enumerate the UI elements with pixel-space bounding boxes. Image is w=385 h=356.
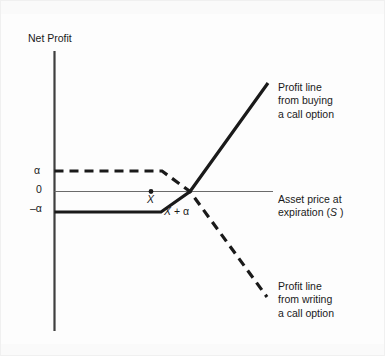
long-call-profit-line bbox=[55, 83, 269, 212]
y-tick-label-zero: 0 bbox=[36, 183, 42, 196]
annotation-write-call-line2: from writing bbox=[278, 293, 332, 305]
y-tick-label-alpha: α bbox=[34, 164, 40, 177]
x-axis-title-line1: Asset price at bbox=[278, 193, 342, 205]
x-axis-title-symbol: S bbox=[330, 206, 337, 218]
y-axis-title: Net Profit bbox=[28, 32, 72, 45]
x-axis-title: Asset price atexpiration (S ) bbox=[278, 193, 343, 220]
breakeven-point-label: X + α bbox=[164, 205, 189, 218]
option-payoff-figure: Net Profit α 0 –α X X + α Asset price at… bbox=[0, 0, 385, 356]
annotation-buy-call: Profit linefrom buyinga call option bbox=[278, 81, 334, 121]
annotation-buy-call-line1: Profit line bbox=[278, 81, 322, 93]
y-tick-label-negative-alpha: –α bbox=[30, 202, 42, 215]
x-axis-title-prefix: expiration ( bbox=[278, 206, 330, 218]
short-call-profit-line bbox=[55, 171, 268, 297]
breakeven-symbol: X bbox=[164, 205, 171, 217]
strike-price-label: X bbox=[147, 193, 154, 206]
annotation-buy-call-line2: from buying bbox=[278, 94, 333, 106]
annotation-write-call-line3: a call option bbox=[278, 307, 334, 319]
annotation-write-call-line1: Profit line bbox=[278, 280, 322, 292]
x-axis-title-suffix: ) bbox=[337, 206, 343, 218]
breakeven-suffix: + α bbox=[171, 205, 189, 217]
annotation-buy-call-line3: a call option bbox=[278, 108, 334, 120]
annotation-write-call: Profit linefrom writinga call option bbox=[278, 280, 334, 320]
